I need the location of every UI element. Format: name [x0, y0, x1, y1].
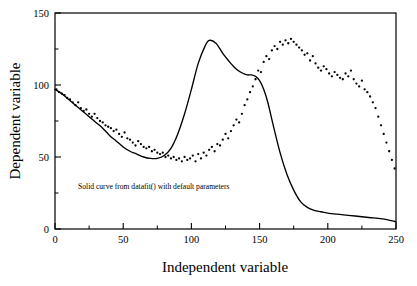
data-point	[132, 141, 134, 143]
y-axis-title: Dependent variable	[7, 62, 23, 179]
data-point	[151, 150, 153, 152]
data-point	[350, 69, 352, 71]
data-point	[366, 91, 368, 93]
data-point	[156, 152, 158, 154]
data-point	[162, 152, 164, 154]
data-point	[325, 68, 327, 70]
data-point	[224, 133, 226, 135]
data-point	[159, 153, 161, 155]
data-point	[55, 88, 57, 90]
data-point	[290, 38, 292, 40]
data-point	[391, 159, 393, 161]
data-point	[260, 71, 262, 73]
data-point	[61, 92, 63, 94]
data-point	[339, 77, 341, 79]
data-point	[331, 75, 333, 77]
data-point	[344, 72, 346, 74]
data-point	[303, 54, 305, 56]
data-point	[249, 91, 251, 93]
data-point	[213, 150, 215, 152]
data-point	[314, 62, 316, 64]
data-point	[164, 156, 166, 158]
data-point	[74, 104, 76, 106]
y-tick-label-100: 100	[33, 80, 49, 91]
data-point	[104, 124, 106, 126]
data-point	[58, 91, 60, 93]
data-point	[306, 52, 308, 54]
data-point	[246, 98, 248, 100]
data-point	[181, 160, 183, 162]
data-point	[102, 121, 104, 123]
y-tick-label-150: 150	[33, 8, 49, 19]
x-axis-title: Independent variable	[162, 259, 289, 275]
data-point	[385, 141, 387, 143]
data-point	[216, 143, 218, 145]
y-tick-label-0: 0	[44, 224, 49, 235]
data-point	[257, 69, 259, 71]
data-point	[118, 133, 120, 135]
data-point	[129, 139, 131, 141]
data-point	[143, 146, 145, 148]
data-point	[287, 42, 289, 44]
data-point	[134, 144, 136, 146]
data-point	[393, 167, 395, 169]
x-tick-label-200: 200	[320, 234, 336, 245]
data-point	[312, 55, 314, 57]
data-point	[301, 49, 303, 51]
data-point	[72, 101, 74, 103]
data-point	[153, 149, 155, 151]
data-point	[282, 44, 284, 46]
data-point	[194, 160, 196, 162]
data-point	[284, 39, 286, 41]
data-point	[69, 98, 71, 100]
x-tick-label-250: 250	[388, 234, 404, 245]
data-point	[175, 159, 177, 161]
data-point	[238, 121, 240, 123]
data-point	[276, 48, 278, 50]
data-point	[293, 41, 295, 43]
data-point	[222, 139, 224, 141]
data-point	[309, 59, 311, 61]
data-point	[336, 74, 338, 76]
data-point	[353, 78, 355, 80]
data-point	[123, 131, 125, 133]
data-point	[99, 120, 101, 122]
data-point	[268, 58, 270, 60]
data-point	[380, 124, 382, 126]
data-point	[317, 67, 319, 69]
data-point	[320, 69, 322, 71]
data-point	[279, 41, 281, 43]
fitted-curve	[55, 40, 396, 222]
data-point	[205, 154, 207, 156]
chart-annotation: Solid curve from datafit() with default …	[78, 182, 229, 191]
data-point	[200, 157, 202, 159]
data-point	[295, 44, 297, 46]
scatter-plot-svg: 050100150200250 050100150 Solid curve fr…	[0, 0, 417, 286]
data-point	[82, 110, 84, 112]
data-point	[88, 113, 90, 115]
data-point	[145, 147, 147, 149]
data-point	[85, 108, 87, 110]
data-point	[252, 85, 254, 87]
data-point	[197, 153, 199, 155]
data-point	[328, 72, 330, 74]
data-point	[358, 85, 360, 87]
data-point	[377, 116, 379, 118]
data-point	[170, 157, 172, 159]
x-tick-label-100: 100	[184, 234, 200, 245]
data-point	[63, 94, 65, 96]
data-point	[115, 128, 117, 130]
data-point	[126, 137, 128, 139]
data-point	[113, 130, 115, 132]
data-point	[80, 107, 82, 109]
data-point	[388, 150, 390, 152]
x-tick-label-150: 150	[252, 234, 268, 245]
data-point	[186, 159, 188, 161]
data-point	[333, 71, 335, 73]
chart-figure: 050100150200250 050100150 Solid curve fr…	[0, 0, 417, 286]
data-point	[263, 61, 265, 63]
data-point	[137, 140, 139, 142]
data-point	[254, 78, 256, 80]
data-point	[230, 130, 232, 132]
y-tick-label-50: 50	[39, 152, 50, 163]
